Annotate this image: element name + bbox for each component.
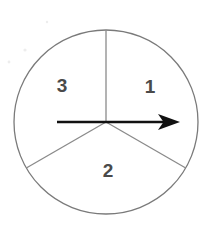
sector-label-2: 2	[103, 160, 114, 181]
sector-label-1: 1	[145, 76, 156, 97]
background-speck	[8, 61, 11, 64]
background-speck	[46, 21, 48, 23]
background-speck	[23, 48, 26, 51]
spinner-figure: 1 2 3	[0, 0, 212, 226]
spinner-diagram: 1 2 3	[0, 0, 212, 226]
sector-label-3: 3	[57, 75, 68, 96]
